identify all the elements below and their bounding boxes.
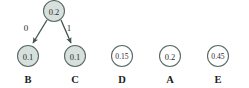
- decision-tree-diagram: 0 1 0.2 0.1 B 0.1 C 0.15 D 0.2 A: [0, 0, 249, 88]
- node-a-value: 0.2: [165, 52, 176, 62]
- node-e-value: 0.45: [211, 52, 224, 61]
- node-d[interactable]: 0.15: [112, 46, 133, 67]
- node-a[interactable]: 0.2: [160, 46, 181, 67]
- node-d-label: D: [118, 74, 126, 85]
- node-root-value: 0.2: [49, 7, 60, 17]
- edge-group: [33, 20, 71, 43]
- edge-line-0: [33, 20, 47, 43]
- node-d-value: 0.15: [115, 52, 128, 61]
- node-e-label: E: [214, 74, 221, 85]
- edge-label-1: 1: [67, 23, 72, 33]
- node-b-label: B: [24, 74, 31, 85]
- node-b-value: 0.1: [23, 52, 34, 62]
- diagram-canvas: 0 1 0.2 0.1 B 0.1 C 0.15 D 0.2 A: [0, 0, 249, 88]
- node-c-value: 0.1: [70, 52, 81, 62]
- edge-label-0: 0: [24, 23, 29, 33]
- node-e[interactable]: 0.45: [208, 46, 229, 67]
- node-b[interactable]: 0.1: [18, 46, 39, 67]
- node-a-label: A: [166, 74, 174, 85]
- node-c-label: C: [71, 74, 79, 85]
- node-c[interactable]: 0.1: [65, 46, 86, 67]
- node-root[interactable]: 0.2: [44, 1, 65, 22]
